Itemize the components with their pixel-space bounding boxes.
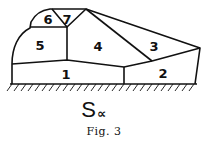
- region-label-6: 6: [43, 12, 52, 27]
- region-label-2: 2: [158, 66, 167, 81]
- region-labels: 1 2 3 4 5 6 7: [35, 12, 167, 82]
- region-label-1: 1: [61, 67, 70, 82]
- figure-diagram: 1 2 3 4 5 6 7 S ∝ Fig. 3: [0, 0, 208, 143]
- region-label-7: 7: [62, 12, 71, 27]
- region-label-4: 4: [93, 39, 102, 54]
- title-subscript: ∝: [97, 106, 106, 121]
- figure-caption: Fig. 3: [86, 125, 121, 138]
- region-label-3: 3: [149, 39, 158, 54]
- figure-title: S ∝: [81, 97, 106, 122]
- region-label-5: 5: [35, 38, 44, 53]
- hatching: [7, 84, 194, 91]
- title-main: S: [81, 97, 96, 122]
